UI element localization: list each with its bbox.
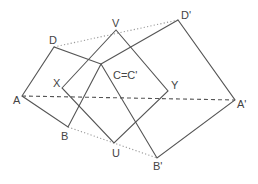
label-c: C=C' [113,69,137,81]
label-d: D [49,34,57,46]
label-u: U [112,147,120,159]
label-d-prime: D' [181,9,191,21]
label-a: A [13,94,21,106]
label-v: V [112,17,120,29]
dashed-line-a-a-prime [22,96,235,100]
label-x: X [53,77,61,89]
label-y: Y [171,79,179,91]
geometry-diagram: A D B C=C' X Y V U D' A' B' [0,0,258,184]
label-a-prime: A' [237,98,246,110]
label-b-prime: B' [153,160,162,172]
label-b: B [61,130,68,142]
square-a-prime-b-prime-c-prime-d-prime [101,20,235,158]
